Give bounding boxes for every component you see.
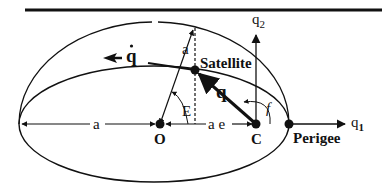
label-q2: q2 bbox=[252, 11, 265, 30]
label-f: f bbox=[266, 100, 272, 116]
label-q1: q1 bbox=[351, 114, 364, 133]
auxiliary-circle-arc bbox=[19, 22, 152, 124]
label-perigee: Perigee bbox=[293, 130, 341, 146]
label-q-vector: q bbox=[216, 81, 227, 102]
label-a-upper: a bbox=[182, 41, 189, 57]
q-dot-marker bbox=[130, 44, 133, 47]
label-satellite: Satellite bbox=[200, 55, 252, 71]
label-O: O bbox=[154, 131, 166, 147]
point-C bbox=[252, 120, 261, 129]
point-perigee bbox=[285, 120, 294, 129]
point-O bbox=[156, 120, 165, 129]
label-E: E bbox=[182, 103, 191, 119]
label-C: C bbox=[251, 131, 262, 147]
label-q-dot: q bbox=[126, 45, 137, 66]
orbit-diagram: q2 q1 q q a a a e E f O C Satellite Peri… bbox=[0, 0, 385, 196]
point-satellite bbox=[191, 66, 200, 75]
label-a-left: a bbox=[93, 116, 100, 132]
label-ae: a e bbox=[208, 116, 225, 132]
